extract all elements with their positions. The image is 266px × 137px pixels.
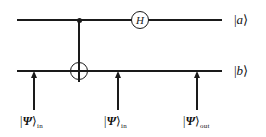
wire-a-ket-close: ⟩: [243, 12, 248, 27]
quantum-circuit-diagram: H |a⟩ |b⟩ |Ψ⟩in |Ψ⟩in |Ψ⟩out: [0, 0, 266, 137]
annotation-label-psi-out: |Ψ⟩out: [183, 115, 210, 130]
hadamard-gate[interactable]: H: [131, 11, 149, 29]
psi-in-mid-symbol: Ψ: [106, 114, 116, 128]
annotation-arrow-shaft-2: [117, 78, 118, 110]
annotation-arrow-head-3: [194, 71, 200, 78]
cnot-target-horizontal-stroke: [68, 70, 90, 72]
annotation-arrow-head-1: [31, 71, 37, 78]
hadamard-gate-label: H: [136, 15, 144, 26]
annotation-arrow-shaft-1: [33, 78, 34, 110]
psi-in-left-subscript: in: [37, 122, 43, 130]
qubit-wire-a: [17, 19, 222, 21]
psi-in-left-symbol: Ψ: [22, 114, 32, 128]
annotation-label-psi-in-mid: |Ψ⟩in: [104, 115, 127, 130]
cnot-control-dot[interactable]: [77, 18, 82, 23]
wire-b-ket-close: ⟩: [243, 63, 248, 78]
psi-out-subscript: out: [200, 122, 210, 130]
psi-in-mid-subscript: in: [121, 122, 127, 130]
annotation-arrow-shaft-3: [196, 78, 197, 110]
wire-b-ket-label: |b⟩: [234, 64, 248, 77]
annotation-label-psi-in-left: |Ψ⟩in: [20, 115, 43, 130]
annotation-arrow-head-2: [115, 71, 121, 78]
psi-out-symbol: Ψ: [185, 114, 195, 128]
wire-a-ket-label: |a⟩: [234, 13, 248, 26]
